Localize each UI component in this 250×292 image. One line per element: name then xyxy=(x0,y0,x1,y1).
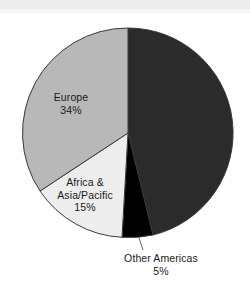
pie-label-africa-asia-pacific: Africa & Asia/Pacific 15% xyxy=(38,176,132,214)
pie-label-africa-line1: Africa & xyxy=(66,176,104,188)
pie-label-africa-line2: Asia/Pacific xyxy=(38,189,132,202)
pie-label-europe-percent: 34% xyxy=(26,104,116,117)
leader-line-other-americas xyxy=(139,238,143,250)
pie-label-other-americas-text: Other Americas xyxy=(124,252,198,264)
pie-label-other-americas: Other Americas 5% xyxy=(96,252,226,277)
pie-chart-svg xyxy=(0,0,250,292)
pie-label-other-americas-percent: 5% xyxy=(96,265,226,278)
pie-label-europe-text: Europe xyxy=(54,91,88,103)
pie-label-africa-percent: 15% xyxy=(38,201,132,214)
pie-chart-figure: Europe 34% Africa & Asia/Pacific 15% Oth… xyxy=(0,0,250,292)
pie-label-europe: Europe 34% xyxy=(26,91,116,116)
